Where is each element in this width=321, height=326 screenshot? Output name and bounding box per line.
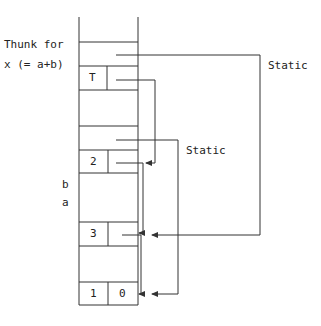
thunk-label-line1: Thunk for [4,39,64,51]
cell-b-value: 2 [90,156,97,168]
cell-thunk-tag: T [89,72,96,84]
cell-a-value: 3 [90,228,97,240]
thunk-label-line2: x (= a+b) [4,59,64,71]
label-a: a [62,197,69,209]
cell-bottom-right: 0 [119,288,126,300]
label-b: b [62,179,69,191]
cell-bottom-left: 1 [90,288,97,300]
static-label-inner: Static [186,145,226,157]
thunk-pointer [116,80,155,163]
static-label-outer: Static [268,60,308,72]
